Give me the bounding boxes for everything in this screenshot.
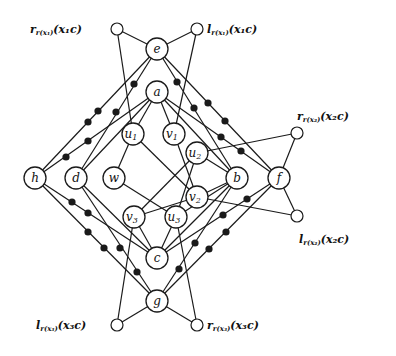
edge-dot-f-g-0: [222, 228, 229, 235]
node-e: e: [146, 38, 168, 60]
node-h: h: [24, 167, 46, 189]
edge-dot-f-c-1: [219, 211, 226, 218]
graph-diagram: eau1v1u2hdwbfv2v3u3cg rr(x₁)(x₁c)lr(x₁)(…: [0, 0, 396, 356]
edge-dot-a-f-1: [237, 147, 244, 154]
edge-dot-e-d-1: [112, 108, 119, 115]
node-f: f: [268, 167, 290, 189]
node-u3: u3: [165, 206, 187, 228]
terminal-node-t2: [191, 23, 203, 35]
edge-dot-e-f-0: [204, 99, 211, 106]
edge-d-g: [76, 178, 157, 301]
node-c: c: [146, 247, 168, 269]
terminal-label-t1: rr(x₁)(x₁c): [30, 23, 82, 37]
node-g: g: [146, 290, 168, 312]
edge-dot-f-c-0: [243, 195, 250, 202]
node-u1: u1: [122, 123, 144, 145]
edge-dot-e-f-1: [221, 117, 228, 124]
edge-dot-a-h-1: [62, 153, 69, 160]
edge-dot-h-g-0: [84, 228, 91, 235]
node-v3: v3: [123, 206, 145, 228]
terminal-node-t1: [111, 23, 123, 35]
node-label: g: [153, 294, 161, 308]
node-v2: v2: [186, 186, 208, 208]
node-d: d: [65, 167, 87, 189]
node-label: w: [109, 171, 120, 185]
edge-e-f: [157, 49, 279, 178]
terminal-node-t5: [111, 319, 123, 331]
node-v1: v1: [163, 123, 185, 145]
terminal-label-t3: rr(x₂)(x₂c): [297, 110, 349, 124]
terminal-label-t2: lr(x₁)(x₁c): [207, 23, 257, 37]
edge-dot-e-d-0: [130, 80, 137, 87]
terminal-node-t4: [291, 210, 303, 222]
edge-t3-u2: [197, 133, 297, 153]
edge-dot-e-h-0: [94, 107, 101, 114]
edge-dot-d-g-0: [116, 244, 123, 251]
terminal-label-t6: rr(x₃)(x₃c): [207, 319, 259, 333]
node-b: b: [226, 167, 248, 189]
terminal-label-t4: lr(x₂)(x₂c): [299, 233, 349, 247]
edge-dot-b-g-1: [175, 265, 182, 272]
node-a: a: [146, 81, 168, 103]
nodes-layer: eau1v1u2hdwbfv2v3u3cg: [24, 38, 290, 312]
node-u2: u2: [186, 142, 208, 164]
edge-dot-h-c-1: [84, 209, 91, 216]
edge-dot-b-g-0: [191, 239, 198, 246]
terminal-node-t6: [191, 319, 203, 331]
edge-dot-h-g-1: [100, 244, 107, 251]
node-label: e: [153, 42, 160, 56]
node-label: b: [233, 171, 241, 185]
node-label: d: [72, 171, 80, 185]
edge-a-d: [76, 92, 157, 178]
edge-dot-e-b-1: [190, 104, 197, 111]
edge-dot-d-g-1: [133, 268, 140, 275]
node-label: c: [154, 251, 161, 265]
edge-dot-a-h-0: [84, 137, 91, 144]
edge-u1-v2: [133, 134, 197, 197]
terminal-label-t5: lr(x₃)(x₃c): [36, 319, 86, 333]
edge-dot-e-h-1: [84, 118, 91, 125]
edge-dot-a-f-0: [217, 133, 224, 140]
node-label: a: [153, 85, 160, 99]
node-label: h: [31, 171, 39, 185]
node-w: w: [103, 167, 125, 189]
edge-dot-e-b-0: [173, 78, 180, 85]
dots-layer: [62, 78, 250, 275]
terminal-node-t3: [291, 127, 303, 139]
edge-dot-f-g-1: [205, 245, 212, 252]
edge-dot-h-c-0: [68, 198, 75, 205]
